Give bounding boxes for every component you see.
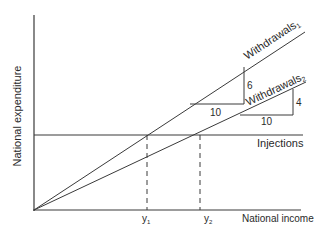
triangle-2-rise-label: 4	[296, 97, 302, 108]
triangle-2-run-label: 10	[261, 116, 273, 127]
x-axis-label: National income	[242, 213, 314, 224]
triangle-1-run-label: 10	[210, 107, 222, 118]
withdrawals-injections-diagram: National expenditure National income y1 …	[0, 0, 320, 237]
y-axis-label: National expenditure	[11, 66, 23, 167]
triangle-1-rise-label: 6	[247, 80, 253, 91]
x-tick-y2: y2	[204, 213, 213, 225]
x-tick-y1: y1	[142, 213, 151, 225]
injections-label: Injections	[257, 137, 304, 149]
slope-triangle-1	[190, 67, 244, 104]
